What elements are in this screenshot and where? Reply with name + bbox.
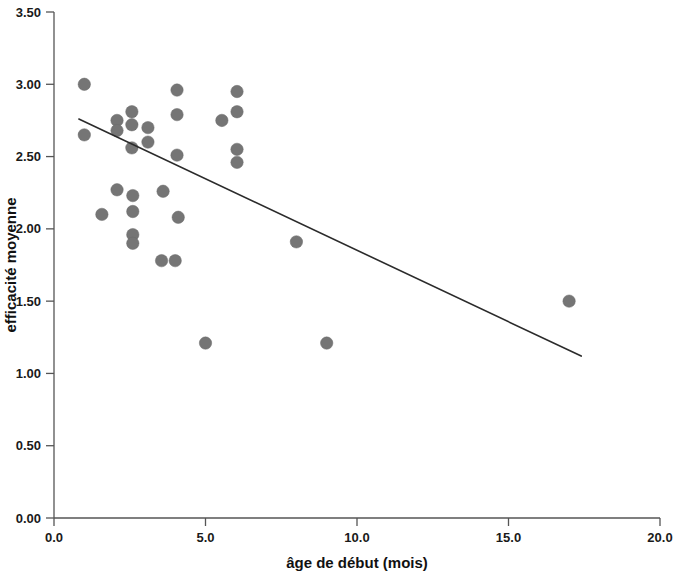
scatter-point [157, 185, 169, 197]
y-tick-label: 1.00 [16, 366, 41, 381]
scatter-point [563, 295, 575, 307]
scatter-point [127, 237, 139, 249]
scatter-point [169, 254, 181, 266]
x-tick-label: 5.0 [196, 530, 214, 545]
scatter-point [78, 129, 90, 141]
scatter-point [171, 84, 183, 96]
data-points [78, 78, 575, 349]
scatter-point [155, 254, 167, 266]
scatter-point [231, 156, 243, 168]
scatter-point [199, 337, 211, 349]
scatter-point [216, 114, 228, 126]
scatter-point [321, 337, 333, 349]
scatter-point [127, 189, 139, 201]
x-tick-label: 0.0 [45, 530, 63, 545]
x-axis-title: âge de début (mois) [286, 554, 428, 571]
y-tick-label: 2.50 [16, 149, 41, 164]
scatter-point [126, 106, 138, 118]
y-tick-label: 0.00 [16, 511, 41, 526]
scatter-point [78, 78, 90, 90]
scatter-plot-figure: 0.000.501.001.502.002.503.003.50 0.05.01… [0, 0, 673, 571]
x-axis-ticks: 0.05.010.015.020.0 [45, 518, 673, 545]
x-tick-label: 20.0 [647, 530, 672, 545]
scatter-point [171, 149, 183, 161]
scatter-point [111, 184, 123, 196]
scatter-point [171, 108, 183, 120]
y-tick-label: 0.50 [16, 438, 41, 453]
scatter-point [231, 85, 243, 97]
scatter-point [142, 121, 154, 133]
y-tick-label: 1.50 [16, 294, 41, 309]
regression-line [79, 119, 581, 356]
scatter-point [172, 211, 184, 223]
y-tick-label: 2.00 [16, 221, 41, 236]
scatter-point [96, 208, 108, 220]
scatter-point [290, 236, 302, 248]
scatter-point [142, 136, 154, 148]
y-axis-ticks: 0.000.501.001.502.002.503.003.50 [16, 5, 54, 526]
x-tick-label: 15.0 [496, 530, 521, 545]
scatter-point [127, 205, 139, 217]
x-tick-label: 10.0 [344, 530, 369, 545]
y-tick-label: 3.50 [16, 5, 41, 20]
scatter-point [126, 119, 138, 131]
y-tick-label: 3.00 [16, 77, 41, 92]
chart-canvas: 0.000.501.001.502.002.503.003.50 0.05.01… [0, 0, 673, 571]
scatter-point [231, 143, 243, 155]
y-axis-title: efficacité moyenne [2, 197, 19, 332]
scatter-point [231, 106, 243, 118]
